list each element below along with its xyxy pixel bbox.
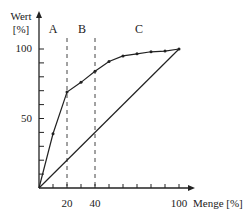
y-axis-arrow-icon bbox=[36, 11, 42, 18]
y-axis-label-line1: Wert bbox=[10, 10, 31, 22]
data-point-marker bbox=[94, 70, 97, 73]
region-boundaries bbox=[67, 38, 95, 188]
data-point-marker bbox=[108, 60, 111, 63]
x-tick-label-20: 20 bbox=[62, 197, 74, 209]
data-point-marker bbox=[52, 132, 55, 135]
data-point-marker bbox=[80, 81, 83, 84]
x-tick-label-100: 100 bbox=[171, 197, 188, 209]
data-point-marker bbox=[66, 91, 69, 94]
y-tick-label-100: 100 bbox=[16, 42, 33, 54]
region-label-c: C bbox=[135, 22, 143, 36]
chart-svg: Wert [%] Menge [%] A B C 20 40 100 50 10… bbox=[0, 0, 248, 218]
data-series bbox=[39, 48, 181, 189]
data-point-marker bbox=[136, 52, 139, 55]
region-label-a: A bbox=[49, 22, 58, 36]
region-label-b: B bbox=[78, 22, 86, 36]
abc-analysis-chart: Wert [%] Menge [%] A B C 20 40 100 50 10… bbox=[0, 0, 248, 218]
x-axis-label: Menge [%] bbox=[193, 197, 243, 209]
axes bbox=[36, 11, 195, 191]
diagonal-reference-line bbox=[39, 49, 179, 188]
y-tick-label-50: 50 bbox=[21, 112, 33, 124]
data-point-marker bbox=[150, 50, 153, 53]
y-axis-label-line2: [%] bbox=[13, 23, 30, 35]
x-tick-label-40: 40 bbox=[90, 197, 102, 209]
data-point-marker bbox=[122, 54, 125, 57]
x-axis-arrow-icon bbox=[188, 185, 195, 191]
data-point-marker bbox=[164, 50, 167, 53]
